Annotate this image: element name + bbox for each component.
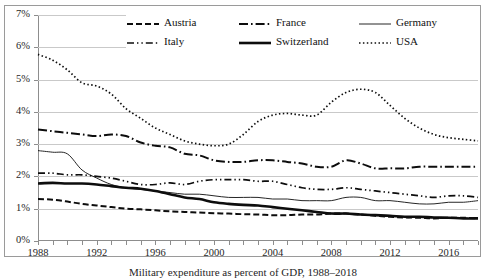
x-tick-mark [155,241,156,245]
x-tick-mark [361,241,362,245]
x-tick-label: 2004 [253,247,293,258]
legend-item-italy[interactable]: Italy [126,32,184,50]
legend-item-austria[interactable]: Austria [126,13,196,31]
legend-swatch-germany [358,16,392,28]
x-tick-mark [331,241,332,245]
series-line-usa [38,54,478,145]
x-tick-mark [434,241,435,245]
series-line-germany [38,151,478,204]
x-tick-mark [111,241,112,245]
legend-label: Austria [164,16,196,28]
x-tick-label: 1996 [135,247,175,258]
figure-caption: Military expenditure as percent of GDP, … [0,266,486,278]
legend-swatch-france [238,16,272,28]
x-tick-mark [405,241,406,245]
x-tick-mark [185,241,186,245]
x-tick-mark [97,241,98,245]
x-tick-mark [67,241,68,245]
x-tick-mark [141,241,142,245]
x-tick-mark [82,241,83,245]
x-tick-mark [229,241,230,245]
legend-label: Germany [396,16,437,28]
legend-row: ItalySwitzerlandUSA [126,32,478,50]
x-tick-mark [390,241,391,245]
y-tick-label: 6% [0,41,30,51]
x-tick-mark [419,241,420,245]
legend-swatch-italy [126,35,160,47]
x-tick-mark [375,241,376,245]
legend-swatch-switzerland [238,35,272,47]
legend-label: France [276,16,306,28]
x-tick-label: 1992 [77,247,117,258]
legend-row: AustriaFranceGermany [126,13,478,31]
series-line-austria [38,199,478,218]
x-tick-label: 2008 [311,247,351,258]
legend-swatch-usa [358,35,392,47]
y-tick-label: 3% [0,138,30,148]
y-tick-label: 4% [0,106,30,116]
x-tick-mark [258,241,259,245]
x-tick-mark [317,241,318,245]
y-tick-label: 1% [0,203,30,213]
x-tick-mark [38,241,39,245]
chart-legend: AustriaFranceGermanyItalySwitzerlandUSA [126,13,478,53]
x-tick-mark [273,241,274,245]
x-tick-label: 2012 [370,247,410,258]
series-line-france [38,130,478,169]
x-tick-mark [243,241,244,245]
x-tick-label: 1988 [18,247,58,258]
x-tick-label: 2016 [429,247,469,258]
y-tick-label: 0% [0,235,30,245]
y-tick-label: 5% [0,74,30,84]
x-tick-mark [449,241,450,245]
x-tick-label: 2000 [194,247,234,258]
legend-swatch-austria [126,16,160,28]
x-tick-mark [302,241,303,245]
legend-item-usa[interactable]: USA [358,32,418,50]
x-tick-mark [478,241,479,245]
x-tick-mark [170,241,171,245]
x-tick-mark [463,241,464,245]
legend-label: Italy [164,35,184,47]
x-tick-mark [53,241,54,245]
x-tick-mark [199,241,200,245]
y-tick-label: 2% [0,170,30,180]
x-tick-mark [346,241,347,245]
legend-label: Switzerland [276,35,329,47]
legend-item-france[interactable]: France [238,13,306,31]
legend-item-switzerland[interactable]: Switzerland [238,32,329,50]
series-line-switzerland [38,183,478,219]
x-tick-mark [214,241,215,245]
x-tick-mark [126,241,127,245]
x-tick-mark [287,241,288,245]
figure-container: 0%1%2%3%4%5%6%7% 19881992199620002004200… [0,0,486,280]
y-tick-label: 7% [0,9,30,19]
legend-label: USA [396,35,418,47]
legend-item-germany[interactable]: Germany [358,13,437,31]
